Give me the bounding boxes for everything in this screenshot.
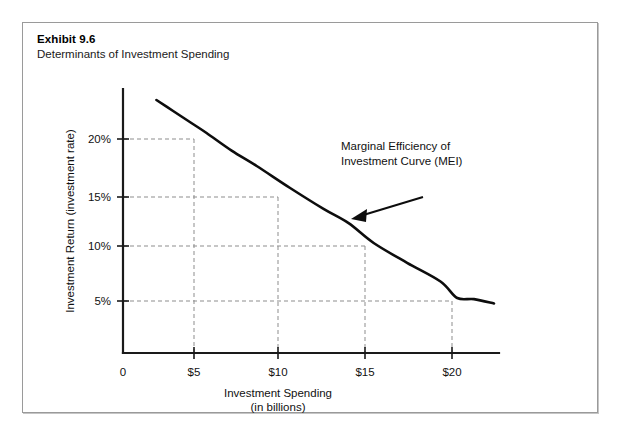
axes-group — [123, 89, 499, 353]
y-axis-title: Investment Return (investment rate) — [64, 129, 76, 313]
mei-annotation-arrow — [351, 197, 423, 222]
chart-plot-area: 20% 15% 10% 5% 0 $5 $10 $15 $20 — [23, 23, 599, 414]
x-tick-label-10b: $10 — [268, 366, 287, 378]
x-axis-title: Investment Spending — [224, 387, 332, 399]
x-axis-title-sub: (in billions) — [251, 401, 306, 413]
annotation-arrow-shaft — [360, 197, 423, 216]
annotation-line-2: Investment Curve (MEI) — [341, 155, 463, 167]
y-tick-label-15pct: 15% — [88, 191, 111, 203]
guide-lines-group — [123, 139, 452, 353]
y-tick-label-5pct: 5% — [94, 295, 111, 307]
y-tick-label-20pct: 20% — [88, 133, 111, 145]
x-tick-label-20b: $20 — [442, 366, 461, 378]
x-tick-label-15b: $15 — [355, 366, 374, 378]
x-tick-labels: 0 $5 $10 $15 $20 — [120, 366, 462, 378]
mei-curve — [156, 100, 494, 304]
y-tick-labels: 20% 15% 10% 5% — [88, 133, 111, 307]
annotation-line-1: Marginal Efficiency of — [341, 140, 451, 152]
exhibit-frame: Exhibit 9.6 Determinants of Investment S… — [22, 22, 598, 413]
mei-chart-svg: 20% 15% 10% 5% 0 $5 $10 $15 $20 — [23, 23, 599, 414]
x-tick-label-5b: $5 — [188, 366, 201, 378]
y-tick-label-10pct: 10% — [88, 240, 111, 252]
annotation-arrow-head — [351, 209, 367, 222]
x-tick-label-0: 0 — [120, 366, 126, 378]
mei-annotation-label: Marginal Efficiency of Investment Curve … — [341, 140, 463, 167]
